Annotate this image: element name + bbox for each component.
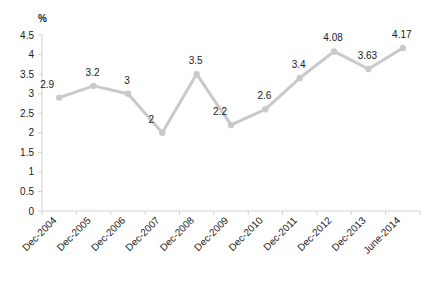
data-point-value-label: 3.4: [292, 59, 306, 70]
data-point-marker: [228, 122, 234, 128]
y-axis-unit-label: %: [38, 13, 47, 24]
data-point-marker: [159, 130, 165, 136]
data-point-value-label: 3.2: [86, 67, 100, 78]
y-axis-tick-label: 2.5: [20, 108, 34, 119]
data-point-value-label: 3: [124, 75, 130, 86]
data-point-marker: [125, 90, 131, 96]
data-point-value-label: 2.2: [213, 106, 227, 117]
data-point-marker: [400, 45, 406, 51]
y-axis-tick-label: 3: [28, 88, 34, 99]
data-point-value-label: 3.5: [189, 55, 203, 66]
data-point-value-label: 2: [148, 114, 154, 125]
y-axis-tick-label: 2: [28, 127, 34, 138]
data-point-value-label: 4.08: [323, 32, 343, 43]
y-axis-tick-label: 4: [28, 49, 34, 60]
data-point-marker: [193, 71, 199, 77]
y-axis-tick-label: 4.5: [20, 30, 34, 41]
line-chart: % 00.511.522.533.544.5 2.93.2323.52.22.6…: [0, 0, 427, 287]
y-axis-tick-label: 0: [28, 206, 34, 217]
data-point-marker: [365, 66, 371, 72]
data-point-marker: [262, 106, 268, 112]
y-axis-tick-label: 0.5: [20, 186, 34, 197]
chart-canvas: % 00.511.522.533.544.5 2.93.2323.52.22.6…: [0, 0, 427, 287]
y-axis-tick-label: 1: [28, 166, 34, 177]
y-axis-tick-label: 1.5: [20, 147, 34, 158]
data-point-value-label: 2.6: [257, 90, 271, 101]
data-point-value-label: 4.17: [392, 29, 412, 40]
data-point-marker: [56, 94, 62, 100]
data-point-marker: [331, 48, 337, 54]
data-point-marker: [297, 75, 303, 81]
y-axis-tick-label: 3.5: [20, 69, 34, 80]
data-point-value-label: 2.9: [40, 79, 54, 90]
data-point-value-label: 3.63: [358, 50, 378, 61]
data-point-marker: [90, 83, 96, 89]
